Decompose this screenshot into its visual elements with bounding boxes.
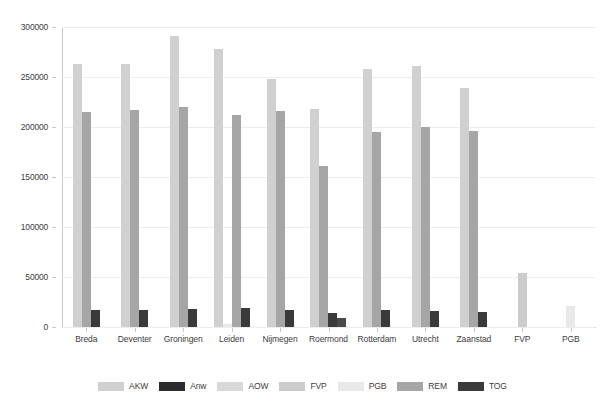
y-tick-mark — [52, 277, 56, 278]
legend-item[interactable]: REM — [397, 381, 447, 391]
bar — [421, 127, 430, 327]
bar — [430, 311, 439, 327]
x-axis-labels: BredaDeventerGroningenLeidenNijmegenRoer… — [62, 334, 595, 352]
legend-swatch-icon — [217, 382, 243, 391]
y-tick-label: 100000 — [21, 222, 48, 232]
x-tick-mark — [280, 328, 281, 332]
bar — [478, 312, 487, 327]
bar — [381, 310, 390, 327]
bar-chart: 050000100000150000200000250000300000 Bre… — [0, 0, 605, 418]
x-tick-mark — [86, 328, 87, 332]
legend-label: PGB — [369, 381, 387, 391]
bar — [469, 131, 478, 327]
x-tick-label: Leiden — [207, 334, 255, 352]
x-tick-label: Breda — [62, 334, 110, 352]
x-tick-label: Zaanstad — [450, 334, 498, 352]
bar — [363, 69, 372, 327]
bar-group — [304, 27, 352, 327]
y-tick-mark — [52, 327, 56, 328]
legend-label: FVP — [310, 381, 326, 391]
bar — [82, 112, 91, 327]
y-tick-label: 0 — [43, 322, 48, 332]
bar — [310, 109, 319, 327]
bar — [73, 64, 82, 327]
bar — [412, 66, 421, 327]
bar — [170, 36, 179, 327]
y-tick-label: 200000 — [21, 122, 48, 132]
bar-groups — [62, 27, 595, 327]
legend-swatch-icon — [397, 382, 423, 391]
chart-legend: AKWAnwAOWFVPPGBREMTOG — [0, 381, 605, 391]
x-tick-label: Rotterdam — [353, 334, 401, 352]
legend-item[interactable]: Anw — [159, 381, 206, 391]
y-tick-mark — [52, 177, 56, 178]
bar — [518, 273, 527, 327]
bar — [319, 166, 328, 327]
x-tick-label: PGB — [547, 334, 595, 352]
x-tick-mark — [232, 328, 233, 332]
legend-label: TOG — [489, 381, 507, 391]
bar — [179, 107, 188, 327]
bar — [188, 309, 197, 327]
x-tick-mark — [377, 328, 378, 332]
y-tick-mark — [52, 77, 56, 78]
bar — [223, 324, 232, 327]
legend-label: AKW — [129, 381, 148, 391]
legend-swatch-icon — [98, 382, 124, 391]
bar — [372, 132, 381, 327]
legend-label: AOW — [248, 381, 268, 391]
bar — [566, 306, 575, 327]
legend-swatch-icon — [159, 382, 185, 391]
legend-item[interactable]: AKW — [98, 381, 148, 391]
bar-group — [450, 27, 498, 327]
plot-area — [62, 27, 595, 327]
bar — [267, 79, 276, 327]
legend-item[interactable]: PGB — [338, 381, 387, 391]
bar-group — [62, 27, 110, 327]
x-tick-label: Nijmegen — [256, 334, 304, 352]
legend-label: Anw — [190, 381, 206, 391]
y-axis-labels: 050000100000150000200000250000300000 — [0, 27, 56, 327]
legend-item[interactable]: AOW — [217, 381, 268, 391]
x-tick-label: Deventer — [110, 334, 158, 352]
x-tick-mark — [135, 328, 136, 332]
bar — [214, 49, 223, 327]
legend-item[interactable]: FVP — [279, 381, 326, 391]
legend-item[interactable]: TOG — [458, 381, 507, 391]
bar — [121, 64, 130, 327]
bar — [91, 310, 100, 328]
bar — [285, 310, 294, 327]
x-tick-mark — [571, 328, 572, 332]
bar — [460, 88, 469, 327]
legend-swatch-icon — [458, 382, 484, 391]
y-tick-mark — [52, 227, 56, 228]
y-tick-label: 150000 — [21, 172, 48, 182]
bar-group — [498, 27, 546, 327]
bar — [328, 313, 337, 327]
legend-swatch-icon — [279, 382, 305, 391]
y-tick-mark — [52, 27, 56, 28]
x-tick-label: FVP — [498, 334, 546, 352]
bar — [241, 308, 250, 327]
x-tick-label: Groningen — [159, 334, 207, 352]
bar — [130, 110, 139, 327]
y-tick-mark — [52, 127, 56, 128]
legend-label: REM — [428, 381, 447, 391]
bar-group — [207, 27, 255, 327]
bar — [139, 310, 148, 327]
bar-group — [159, 27, 207, 327]
x-tick-mark — [474, 328, 475, 332]
legend-swatch-icon — [338, 382, 364, 391]
bar-group — [547, 27, 595, 327]
bar-group — [353, 27, 401, 327]
x-tick-mark — [425, 328, 426, 332]
bar — [276, 111, 285, 327]
bar — [337, 318, 346, 328]
y-tick-label: 250000 — [21, 72, 48, 82]
x-tick-mark — [329, 328, 330, 332]
bar-group — [401, 27, 449, 327]
x-tick-label: Utrecht — [401, 334, 449, 352]
x-tick-mark — [522, 328, 523, 332]
x-tick-mark — [183, 328, 184, 332]
bar — [232, 115, 241, 327]
